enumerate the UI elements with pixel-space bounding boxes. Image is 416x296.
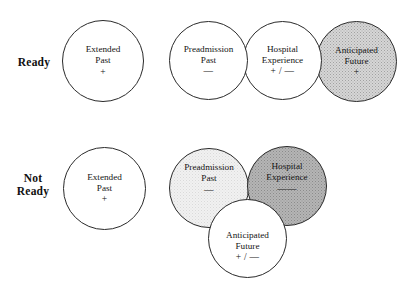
title-line-2: Experience xyxy=(266,172,307,183)
circle-notready-anticipated-future: Anticipated Future + / — xyxy=(208,199,287,278)
title-line-2: Past xyxy=(87,183,122,194)
circle-ready-extended-past: Extended Past + xyxy=(62,20,144,102)
circle-ready-hospital-experience-symbol: + / — xyxy=(262,66,303,77)
circle-ready-extended-past-symbol: + xyxy=(86,67,121,78)
title-line-2: Future xyxy=(335,56,378,67)
circle-notready-extended-past-symbol: + xyxy=(87,194,122,205)
circle-notready-anticipated-future-title: Anticipated Future xyxy=(226,230,269,251)
title-line-1: Anticipated xyxy=(335,45,378,56)
title-line-2: Past xyxy=(184,173,234,184)
circle-notready-preadmission-past-title: Preadmission Past xyxy=(184,162,234,183)
circle-ready-hospital-experience: Hospital Experience + / — xyxy=(243,21,322,100)
title-line-1: Preadmission xyxy=(184,162,234,173)
title-line-1: Hospital xyxy=(266,161,307,172)
title-line-2: Past xyxy=(184,55,234,66)
circle-notready-extended-past-title: Extended Past xyxy=(87,172,122,193)
circle-notready-preadmission-past-symbol: — xyxy=(184,185,234,196)
circle-ready-preadmission-past: Preadmission Past — xyxy=(169,21,248,100)
circle-ready-hospital-experience-title: Hospital Experience xyxy=(262,44,303,65)
circle-notready-hospital-experience-content: Hospital Experience —— xyxy=(264,161,309,210)
diagram-canvas: Ready Extended Past + Preadmission Past … xyxy=(0,0,416,296)
circle-ready-anticipated-future-symbol: + xyxy=(335,67,378,78)
circle-ready-anticipated-future: Anticipated Future + xyxy=(316,21,397,102)
circle-ready-preadmission-past-content: Preadmission Past — xyxy=(182,44,236,77)
circle-ready-preadmission-past-title: Preadmission Past xyxy=(184,44,234,65)
row-label-not-ready: Not Ready xyxy=(4,172,62,198)
circle-ready-preadmission-past-symbol: — xyxy=(184,66,234,77)
circle-notready-hospital-experience-symbol: —— xyxy=(266,184,307,195)
title-line-1: Extended xyxy=(87,172,122,183)
circle-notready-anticipated-future-content: Anticipated Future + / — xyxy=(224,214,271,263)
row-label-ready: Ready xyxy=(8,56,60,69)
circle-notready-anticipated-future-symbol: + / — xyxy=(226,252,269,263)
circle-notready-extended-past-content: Extended Past + xyxy=(85,172,124,205)
circle-ready-extended-past-content: Extended Past + xyxy=(84,44,123,77)
title-line-1: Anticipated xyxy=(226,230,269,241)
title-line-1: Hospital xyxy=(262,44,303,55)
circle-notready-extended-past: Extended Past + xyxy=(63,147,146,230)
circle-ready-hospital-experience-content: Hospital Experience + / — xyxy=(260,44,305,77)
title-line-1: Extended xyxy=(86,44,121,55)
title-line-1: Preadmission xyxy=(184,44,234,55)
title-line-2: Past xyxy=(86,55,121,66)
title-line-2: Experience xyxy=(262,55,303,66)
circle-ready-anticipated-future-title: Anticipated Future xyxy=(335,45,378,66)
title-line-2: Future xyxy=(226,241,269,252)
circle-ready-extended-past-title: Extended Past xyxy=(86,44,121,65)
circle-notready-hospital-experience-title: Hospital Experience xyxy=(266,161,307,182)
circle-ready-anticipated-future-content: Anticipated Future + xyxy=(333,45,380,78)
